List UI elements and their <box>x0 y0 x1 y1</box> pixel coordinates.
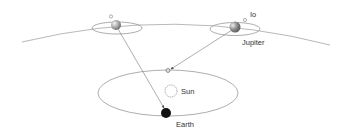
earth-label: Earth <box>176 120 194 129</box>
romer-diagram: Io Jupiter Sun Earth <box>0 0 347 132</box>
jupiter-label: Jupiter <box>242 38 265 47</box>
io-right-icon <box>243 18 246 21</box>
earth-near-icon <box>166 69 170 73</box>
jupiter-left <box>92 15 142 34</box>
jupiter-orbit <box>22 24 330 45</box>
jupiter-right <box>210 18 260 35</box>
sun-label: Sun <box>181 87 194 96</box>
light-path-far <box>118 29 164 108</box>
earth-icon <box>161 108 171 118</box>
sun-icon <box>165 85 177 97</box>
io-left-icon <box>109 15 112 18</box>
io-label: Io <box>250 10 256 19</box>
light-path-near <box>171 30 232 69</box>
jupiter-left-icon <box>111 20 121 30</box>
